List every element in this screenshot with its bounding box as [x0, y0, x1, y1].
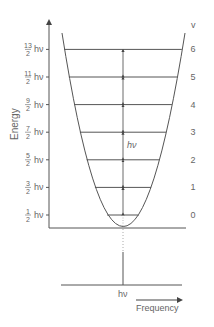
quantum-number: 6: [190, 44, 195, 54]
energy-level-v5: 112hν5: [24, 70, 195, 85]
spacing-label: hν: [127, 140, 137, 150]
energy-level-v1: 32hν1: [25, 180, 196, 195]
fraction-numerator: 3: [26, 180, 30, 187]
y-axis-label: Energy: [9, 108, 20, 140]
quantum-number: 5: [190, 72, 195, 82]
level-energy-unit: hν: [34, 155, 44, 165]
level-energy-unit: hν: [34, 72, 44, 82]
fraction-numerator: 9: [26, 97, 30, 104]
fraction-denominator: 2: [26, 78, 30, 85]
x-axis-label: Frequency: [136, 303, 179, 313]
fraction-denominator: 2: [26, 50, 30, 57]
quantum-number-label: v: [191, 20, 196, 30]
fraction-denominator: 2: [26, 160, 30, 167]
fraction-denominator: 2: [26, 216, 30, 223]
fraction-numerator: 11: [24, 70, 31, 77]
energy-level-v2: 52hν2: [25, 152, 196, 167]
energy-level-v3: 72hν3: [25, 125, 196, 140]
level-energy-unit: hν: [34, 127, 44, 137]
energy-level-v6: 132hν6: [24, 42, 195, 57]
fraction-numerator: 1: [26, 208, 30, 215]
level-energy-unit: hν: [34, 210, 44, 220]
fraction-denominator: 2: [26, 105, 30, 112]
quantum-number: 0: [190, 210, 195, 220]
fraction-numerator: 7: [26, 125, 30, 132]
quantum-number: 3: [190, 127, 195, 137]
level-energy-unit: hν: [34, 100, 44, 110]
energy-level-v0: 12hν0: [25, 208, 196, 223]
level-energy-unit: hν: [34, 44, 44, 54]
quantum-number: 1: [190, 182, 195, 192]
fraction-numerator: 13: [24, 42, 32, 49]
peak-label: hν: [118, 289, 128, 299]
level-energy-unit: hν: [34, 182, 44, 192]
fraction-denominator: 2: [26, 133, 30, 140]
potential-curve: [62, 33, 185, 227]
energy-levels: 12hν032hν152hν272hν392hν4112hν5132hν6: [24, 42, 195, 223]
fraction-denominator: 2: [26, 188, 30, 195]
quantum-number: 2: [190, 155, 195, 165]
quantum-number: 4: [190, 100, 195, 110]
fraction-numerator: 5: [26, 152, 30, 159]
energy-level-v4: 92hν4: [25, 97, 196, 112]
energy-diagram: 12hν032hν152hν272hν392hν4112hν5132hν6 hν…: [0, 0, 214, 327]
